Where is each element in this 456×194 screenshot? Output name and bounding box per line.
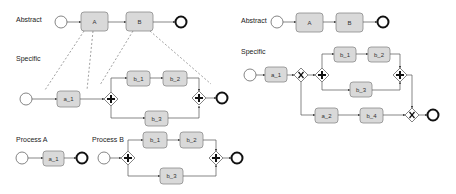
- task-A: A: [81, 12, 108, 31]
- parallel-gateway-split: [315, 68, 329, 82]
- start-event: [271, 16, 283, 28]
- svg-text:b_1: b_1: [340, 52, 351, 58]
- svg-text:b_1: b_1: [150, 137, 161, 143]
- start-event: [20, 93, 32, 105]
- bpmn-diagram: Abstract A B Specific a_1 b_1 b_2: [0, 0, 456, 194]
- start-event: [244, 69, 256, 81]
- svg-text:b_1: b_1: [133, 76, 144, 82]
- task-b_1: b_1: [143, 132, 167, 148]
- task-b_2: b_2: [368, 47, 390, 62]
- task-b_3: b_3: [350, 82, 372, 97]
- svg-text:b_2: b_2: [186, 137, 197, 143]
- end-event: [428, 110, 439, 121]
- exclusive-gateway-join: [405, 108, 419, 122]
- parallel-gateway-join: [192, 91, 206, 105]
- end-event: [232, 153, 243, 164]
- svg-text:b_2: b_2: [170, 76, 181, 82]
- task-b_1: b_1: [127, 71, 150, 86]
- mapping-line: [87, 31, 93, 90]
- task-a_1: a_1: [57, 91, 80, 107]
- task-b_3: b_3: [160, 168, 183, 184]
- end-event: [217, 93, 228, 104]
- start-event: [16, 152, 28, 164]
- process-b-label: Process B: [92, 136, 124, 143]
- end-event: [378, 17, 389, 28]
- abstract-label-left: Abstract: [16, 16, 42, 23]
- svg-text:b_3: b_3: [151, 116, 162, 122]
- svg-text:a_1: a_1: [271, 72, 282, 78]
- task-a_1: a_1: [43, 151, 64, 166]
- task-b_3: b_3: [145, 111, 168, 126]
- task-B: B: [336, 13, 363, 32]
- exclusive-gateway-split: [294, 68, 308, 82]
- svg-text:b_3: b_3: [356, 87, 367, 93]
- task-B: B: [126, 12, 153, 31]
- svg-text:A: A: [92, 19, 96, 25]
- task-A: A: [296, 13, 323, 32]
- task-b_2: b_2: [163, 71, 187, 86]
- parallel-gateway-join: [393, 68, 407, 82]
- parallel-gateway-join: [209, 151, 223, 165]
- end-event: [176, 17, 187, 28]
- svg-text:B: B: [137, 19, 141, 25]
- svg-text:a_1: a_1: [48, 156, 59, 162]
- svg-text:b_3: b_3: [166, 173, 177, 179]
- start-event: [55, 16, 67, 28]
- start-event: [98, 152, 110, 164]
- task-b_4: b_4: [360, 108, 383, 123]
- svg-text:b_2: b_2: [374, 52, 385, 58]
- svg-text:b_4: b_4: [366, 113, 377, 119]
- process-a-label: Process A: [16, 136, 48, 143]
- svg-text:A: A: [307, 20, 311, 26]
- specific-label-left: Specific: [16, 55, 41, 63]
- end-event: [77, 153, 88, 164]
- mapping-line: [45, 31, 84, 90]
- task-a_1: a_1: [265, 67, 287, 82]
- task-b_1: b_1: [334, 47, 356, 62]
- task-b_2: b_2: [180, 132, 203, 148]
- svg-text:a_2: a_2: [321, 113, 332, 119]
- specific-label-right: Specific: [241, 48, 266, 56]
- task-a_2: a_2: [315, 108, 338, 123]
- parallel-gateway-split: [121, 151, 135, 165]
- abstract-label-right: Abstract: [241, 17, 267, 24]
- svg-text:B: B: [347, 20, 351, 26]
- parallel-gateway-split: [104, 92, 118, 106]
- svg-text:a_1: a_1: [63, 96, 74, 102]
